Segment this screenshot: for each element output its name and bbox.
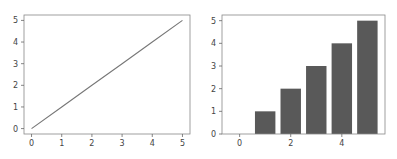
bar	[255, 111, 275, 134]
y-tick-label: 4	[211, 39, 216, 48]
x-tick-label: 1	[59, 139, 64, 148]
y-tick-label: 3	[211, 62, 216, 71]
line-chart-axes: 012345012345	[13, 15, 190, 148]
y-tick-label: 4	[13, 38, 18, 47]
data-line	[32, 20, 183, 128]
x-tick-label: 2	[288, 139, 293, 148]
y-tick-label: 2	[13, 81, 18, 90]
y-tick-label: 0	[13, 125, 18, 134]
y-tick-label: 1	[211, 107, 216, 116]
y-tick-label: 2	[211, 85, 216, 94]
y-tick-label: 5	[13, 16, 18, 25]
bar	[332, 43, 352, 134]
y-tick-label: 5	[211, 17, 216, 26]
bar	[281, 89, 301, 134]
x-tick-label: 2	[89, 139, 94, 148]
x-tick-label: 4	[339, 139, 344, 148]
y-tick-label: 3	[13, 60, 18, 69]
x-tick-label: 5	[180, 139, 185, 148]
y-tick-label: 1	[13, 103, 18, 112]
bar	[306, 66, 326, 134]
x-tick-label: 0	[29, 139, 34, 148]
bar-chart-axes: 024012345	[211, 15, 385, 148]
x-tick-label: 4	[150, 139, 155, 148]
y-tick-label: 0	[211, 130, 216, 139]
x-tick-label: 0	[237, 139, 242, 148]
figure: 012345012345 024012345	[0, 0, 397, 159]
x-tick-label: 3	[120, 139, 125, 148]
bar	[357, 21, 377, 134]
